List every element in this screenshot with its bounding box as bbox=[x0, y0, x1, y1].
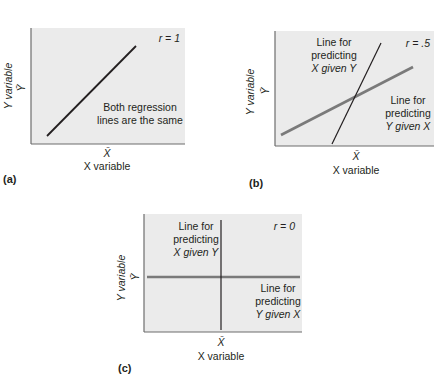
label-y-given-x-c-2: predicting bbox=[255, 295, 301, 307]
annotation-a-line1: Both regression bbox=[103, 101, 177, 113]
regression-lines-figure: r = 1 Both regression lines are the same… bbox=[0, 0, 434, 375]
y-axis-label-a: Y variable bbox=[2, 63, 14, 110]
label-x-given-y-b-3: X given Y bbox=[311, 62, 358, 74]
x-axis-label-a: X variable bbox=[84, 160, 131, 172]
label-x-given-y-c-2: predicting bbox=[173, 233, 219, 245]
x-axis-label-c: X variable bbox=[198, 350, 245, 362]
label-x-given-y-c-3: X given Y bbox=[173, 246, 220, 258]
annotation-a-line2: lines are the same bbox=[97, 114, 183, 126]
x-axis-label-b: X variable bbox=[333, 164, 380, 176]
x-mean-label-c: X̄ bbox=[216, 336, 225, 348]
label-x-given-y-b-2: predicting bbox=[311, 49, 357, 61]
r-label-c: r = 0 bbox=[274, 220, 295, 232]
y-mean-label-c: Ȳ bbox=[129, 273, 141, 281]
panel-tag-c: (c) bbox=[118, 362, 132, 374]
label-y-given-x-b-1: Line for bbox=[390, 94, 426, 106]
panel-a: r = 1 Both regression lines are the same… bbox=[2, 28, 185, 185]
panel-tag-a: (a) bbox=[3, 173, 17, 185]
plot-area-a bbox=[31, 28, 185, 144]
panel-b: r = .5 Line for predicting X given Y Lin… bbox=[244, 31, 434, 189]
y-mean-label-b: Ȳ bbox=[259, 87, 271, 95]
r-label-a: r = 1 bbox=[159, 32, 180, 44]
x-mean-label-a: X̄ bbox=[102, 147, 111, 159]
label-x-given-y-b-1: Line for bbox=[316, 36, 352, 48]
label-y-given-x-c-3: Y given X bbox=[256, 308, 302, 320]
r-label-b: r = .5 bbox=[406, 37, 430, 49]
y-axis-label-c: Y variable bbox=[115, 255, 127, 302]
y-axis-label-b: Y variable bbox=[244, 69, 256, 116]
label-y-given-x-b-3: Y given X bbox=[386, 120, 432, 132]
label-y-given-x-c-1: Line for bbox=[260, 282, 296, 294]
x-mean-label-b: X̄ bbox=[351, 150, 360, 162]
label-x-given-y-c-1: Line for bbox=[178, 220, 214, 232]
y-mean-label-a: Ȳ bbox=[15, 84, 27, 92]
label-y-given-x-b-2: predicting bbox=[385, 107, 431, 119]
panel-c: r = 0 Line for predicting X given Y Line… bbox=[115, 214, 302, 374]
panel-tag-b: (b) bbox=[249, 177, 263, 189]
